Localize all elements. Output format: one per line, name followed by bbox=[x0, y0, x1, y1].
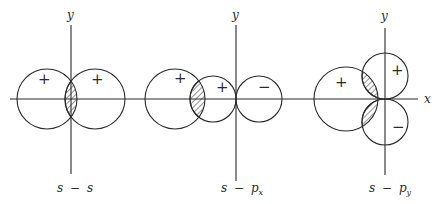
panel-caption: s − s bbox=[57, 181, 93, 195]
y-axis-label: y bbox=[231, 8, 239, 22]
panel-caption: s − py bbox=[369, 181, 412, 197]
panel-s-py: y + + − s − py bbox=[314, 9, 412, 197]
panel-s-s: y + + s − s bbox=[17, 8, 125, 195]
sign-label: + bbox=[174, 69, 187, 87]
y-axis-label: y bbox=[380, 9, 388, 23]
sign-label: − bbox=[258, 78, 271, 96]
sign-label: − bbox=[392, 118, 405, 136]
sign-label: + bbox=[91, 70, 104, 88]
x-axis-label: x bbox=[424, 92, 431, 106]
orbital-overlap-figure: x y + + s − s y + + − s − px bbox=[0, 0, 440, 204]
sign-label: + bbox=[216, 78, 229, 96]
sign-label: + bbox=[335, 73, 348, 91]
panel-caption: s − px bbox=[221, 181, 264, 197]
panel-s-px: y + + − s − px bbox=[145, 8, 282, 197]
sign-label: + bbox=[391, 61, 404, 79]
sign-label: + bbox=[38, 70, 51, 88]
y-axis-label: y bbox=[66, 8, 74, 22]
